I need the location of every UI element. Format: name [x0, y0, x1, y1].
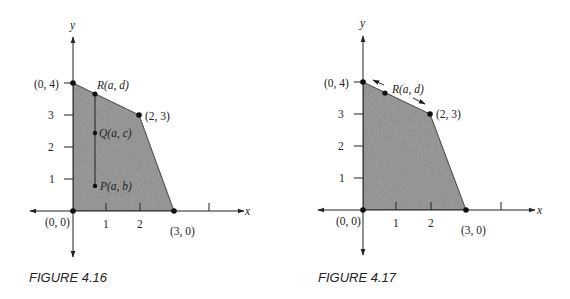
vertex-corner-dot [136, 112, 142, 118]
vertex-corner-label: (2, 3) [145, 110, 170, 123]
arrow-toward-corner-icon [413, 98, 425, 104]
point-r-dot [382, 90, 387, 95]
figure-4-17: y x 3 2 1 1 2 (0, 4) (2, 3) (0, 0) (3, 0… [318, 17, 543, 285]
point-p-label: P(a, b) [99, 180, 132, 193]
figure-caption: FIGURE 4.16 [29, 270, 108, 285]
x-axis-label: x [244, 205, 251, 217]
figures-canvas: y x 3 2 1 1 2 (0, 4) (2, 3) (0, 0) (3, 0… [0, 0, 570, 299]
y-tick-label-1: 1 [49, 173, 55, 185]
point-p-dot [93, 184, 97, 188]
vertex-top-label: (0, 4) [324, 77, 349, 90]
vertex-right-dot [171, 208, 177, 214]
vertex-origin-label: (0, 0) [336, 215, 361, 228]
x-tick-label-2: 2 [428, 217, 434, 229]
x-axis-label: x [536, 204, 543, 216]
vertex-top-dot [360, 79, 366, 85]
vertex-right-label: (3, 0) [170, 225, 195, 238]
y-tick-label-1: 1 [339, 172, 345, 184]
y-axis-label: y [359, 17, 366, 30]
feasible-region [363, 82, 466, 210]
figure-caption: FIGURE 4.17 [318, 270, 397, 285]
vertex-top-label: (0, 4) [34, 78, 59, 91]
vertex-corner-label: (2, 3) [436, 108, 461, 121]
y-tick-label-2: 2 [48, 141, 54, 153]
y-axis-label: y [69, 19, 76, 32]
point-q-label: Q(a, c) [99, 127, 132, 140]
point-r-label: R(a, d) [96, 79, 129, 92]
vertex-right-dot [463, 207, 469, 213]
x-tick-label-1: 1 [103, 218, 109, 230]
vertex-origin-dot [70, 208, 76, 214]
y-tick-label-3: 3 [48, 109, 54, 121]
x-tick-label-1: 1 [393, 217, 399, 229]
vertex-right-label: (3, 0) [461, 224, 486, 237]
y-tick-label-3: 3 [338, 108, 344, 120]
figure-4-16: y x 3 2 1 1 2 (0, 4) (2, 3) (0, 0) (3, 0… [29, 19, 251, 285]
arrow-toward-top-icon [373, 80, 384, 85]
point-q-dot [93, 131, 97, 135]
point-r-dot [92, 91, 97, 96]
vertex-top-dot [70, 80, 76, 86]
point-r-label: R(a, d) [391, 83, 424, 96]
y-tick-label-2: 2 [338, 140, 344, 152]
vertex-corner-dot [427, 111, 433, 117]
vertex-origin-label: (0, 0) [45, 216, 70, 229]
x-tick-label-2: 2 [137, 218, 143, 230]
vertex-origin-dot [360, 207, 366, 213]
